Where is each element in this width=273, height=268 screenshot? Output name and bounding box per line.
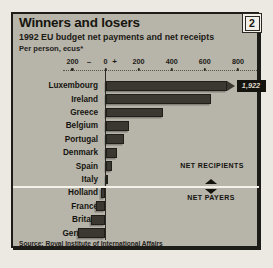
country-label-ireland: Ireland (14, 95, 98, 104)
country-label-portugal: Portugal (14, 135, 98, 144)
bar-greece (106, 108, 164, 118)
bar-france (96, 201, 105, 211)
country-label-luxembourg: Luxembourg (14, 81, 98, 90)
country-label-denmark: Denmark (14, 148, 98, 157)
offscale-arrow-icon (227, 81, 235, 91)
bar-germany (78, 228, 105, 238)
country-label-greece: Greece (14, 108, 98, 117)
country-label-belgium: Belgium (14, 121, 98, 130)
value-callout-luxembourg: 1,922 (237, 80, 266, 92)
recipients-payers-divider-line (13, 186, 259, 188)
plot-area: NET RECIPIENTS NET PAYERS Luxembourg1,92… (0, 0, 273, 268)
source-note: Source: Royal Institute of International… (19, 240, 163, 247)
country-label-britain: Britain (14, 215, 98, 224)
bar-ireland (106, 94, 212, 104)
bar-britain (91, 215, 105, 225)
bar-holland (101, 188, 105, 198)
bar-belgium (106, 121, 129, 131)
bar-italy (106, 175, 108, 185)
bar-luxembourg (106, 81, 228, 91)
bar-portugal (106, 134, 124, 144)
country-label-france: France (14, 202, 98, 211)
country-label-italy: Italy (14, 175, 98, 184)
bar-denmark (106, 148, 118, 158)
country-label-holland: Holland (14, 188, 98, 197)
net-payers-label: NET PAYERS (187, 194, 235, 201)
net-recipients-label: NET RECIPIENTS (180, 162, 244, 169)
scanned-chart-page: Winners and losers 2 1992 EU budget net … (0, 0, 273, 268)
arrow-up-icon (205, 179, 217, 184)
bar-spain (106, 161, 113, 171)
country-label-spain: Spain (14, 162, 98, 171)
